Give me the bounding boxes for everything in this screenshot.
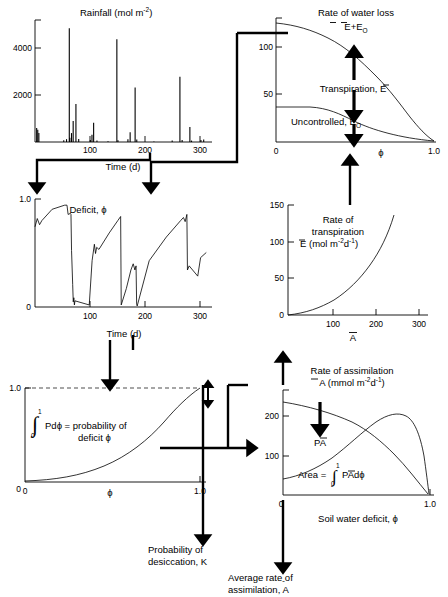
transp-xtick-label-200: 200 [369, 319, 383, 329]
prob-ytick-label-0: 0 [16, 484, 21, 494]
waterloss-label-uncontrolled-text: Uncontrolled, E [291, 116, 356, 127]
assim-label-area-phi: ϕ [359, 469, 364, 480]
waterloss-title-plusE: +E [351, 21, 363, 32]
assim-area-lower: 0 [331, 480, 335, 487]
panel-assimilation: 200 100 0 1.0 Rate of assimilation A (mm… [248, 362, 448, 527]
assim-curve-PA [283, 414, 429, 494]
rainfall-ytick-label-2000: 2000 [13, 90, 32, 100]
deficit-title-b: ϕ [101, 204, 106, 215]
deficit-ytick-label-0: 0 [26, 302, 31, 312]
transp-title-line3: E (mol m-2d-1) [300, 237, 358, 249]
prob-integral-label-line1: Pdϕ = probability of [45, 420, 127, 431]
transp-title-unit-a: (mol m [306, 238, 338, 249]
assim-title-unit-a: (mmol m [325, 377, 365, 388]
rainfall-xtick-label-100: 100 [83, 145, 97, 155]
deficit-title: Deficit, ϕ [69, 204, 106, 215]
waterloss-xtick-label-0: 0 [274, 146, 279, 156]
waterloss-label-transpiration-text: Transpiration, E [320, 83, 387, 94]
rainfall-ytick-label-4000: 4000 [13, 43, 32, 53]
transp-title-line2: transpiration [312, 226, 364, 237]
panel-rainfall: 4000 2000 100 200 300 Rainfall (mol m-2)… [0, 0, 232, 175]
deficit-xtick-label-200: 200 [138, 311, 152, 321]
prob-ytick-label-1: 1.0 [9, 383, 21, 393]
transp-xtick-label-100: 100 [326, 319, 340, 329]
waterloss-xtick-label-1: 1.0 [428, 146, 440, 156]
panel-water-loss: 100 50 0 1.0 ϕ Rate of water loss E+EO T… [248, 0, 448, 175]
output-average-assimilation: Average rate of assimilation, Â [228, 572, 293, 596]
assim-ytick-label-100: 100 [265, 451, 279, 461]
assim-label-area-text: Area = [298, 469, 327, 480]
deficit-xlabel: Time (d) [106, 328, 141, 339]
panel-probability: 1.0 0 0 1.0 ϕ ∫ 1 0 Pdϕ = probability of… [0, 370, 240, 510]
prob-label-deficit-phi: ϕ [105, 432, 110, 443]
figure-root: 4000 2000 100 200 300 Rainfall (mol m-2)… [0, 0, 448, 597]
avg-assim-line1: Average rate of [228, 572, 293, 584]
transp-title-close: ) [355, 238, 358, 249]
deficit-xtick-label-100: 100 [83, 311, 97, 321]
panel-deficit: 1.0 0 100 200 300 Deficit, ϕ Time (d) [0, 185, 232, 350]
deficit-ytick-label-1: 1.0 [19, 194, 31, 204]
assim-xtick-label-0: 0 [279, 499, 284, 509]
prob-label-deficit: deficit [78, 432, 105, 443]
assim-label-PA: PA [314, 437, 327, 448]
prob-xtick-label-1: 1.0 [194, 486, 206, 496]
waterloss-ytick-label-50: 50 [264, 89, 274, 99]
assim-ytick-label-200: 200 [265, 411, 279, 421]
assim-label-Abar: A [320, 437, 327, 448]
avg-assim-text: assimilation, [228, 584, 282, 595]
transp-xtick-label-300: 300 [412, 319, 426, 329]
avg-assim-Ahat: Â [282, 584, 288, 595]
prob-curve [25, 388, 200, 481]
assim-xlabel: Soil water deficit, ϕ [318, 513, 398, 524]
rainfall-title-main: Rainfall (mol m [80, 7, 143, 18]
waterloss-label-transpiration: Transpiration, E [320, 83, 387, 94]
prob-xtick-label-0: 0 [23, 486, 28, 496]
prob-integral-upper: 1 [38, 408, 42, 415]
assim-title-line1: Rate of assimilation [311, 365, 394, 376]
assim-area-upper: 1 [336, 462, 340, 469]
transp-title-line1: Rate of [323, 214, 354, 225]
transp-ytick-label-0: 0 [279, 310, 284, 320]
waterloss-xlabel: ϕ [378, 147, 383, 158]
rainfall-xlabel: Time (d) [105, 161, 140, 172]
panel-transpiration: 150 100 50 0 100 200 300 Rate of transpi… [248, 185, 448, 350]
prob-integral-label-line2: deficit ϕ [78, 432, 111, 443]
waterloss-title-line1: Rate of water loss [318, 7, 394, 18]
waterloss-title-sub: O [363, 27, 368, 34]
prob-label-eq: = probability of [62, 420, 127, 431]
rainfall-title-end: ) [149, 7, 152, 18]
prob-label-Pd: Pd [45, 420, 57, 431]
deficit-title-a: Deficit, [69, 204, 101, 215]
deficit-xtick-label-300: 300 [193, 311, 207, 321]
desiccation-line2: desiccation, K [148, 556, 207, 568]
transp-ytick-label-100: 100 [270, 237, 284, 247]
rainfall-title: Rainfall (mol m-2) [80, 6, 152, 18]
waterloss-label-uncontrolled: Uncontrolled, EO [291, 116, 361, 129]
waterloss-label-uncontrolled-sub: O [356, 122, 361, 129]
transp-ytick-label-150: 150 [270, 200, 284, 210]
assim-xtick-label-1: 1.0 [424, 499, 436, 509]
rainfall-xtick-label-300: 300 [193, 145, 207, 155]
prob-integral-lower: 0 [31, 432, 35, 439]
assim-label-area: Area = [298, 469, 327, 480]
transp-xlabel: A [350, 332, 357, 343]
waterloss-ytick-label-100: 100 [259, 42, 273, 52]
assim-title-close: ) [382, 377, 385, 388]
avg-assim-line2: assimilation, Â [228, 584, 293, 596]
waterloss-title-line2: E+EO [344, 21, 367, 34]
output-desiccation: Probability of desiccation, K [148, 544, 207, 568]
transp-ytick-label-50: 50 [275, 273, 285, 283]
prob-xlabel: ϕ [107, 487, 112, 498]
desiccation-line1: Probability of [148, 544, 207, 556]
rainfall-bars [37, 28, 204, 142]
assim-title-line2: A (mmol m-2d-1) [319, 376, 384, 388]
deficit-trace [35, 205, 206, 306]
rainfall-xtick-label-200: 200 [138, 145, 152, 155]
